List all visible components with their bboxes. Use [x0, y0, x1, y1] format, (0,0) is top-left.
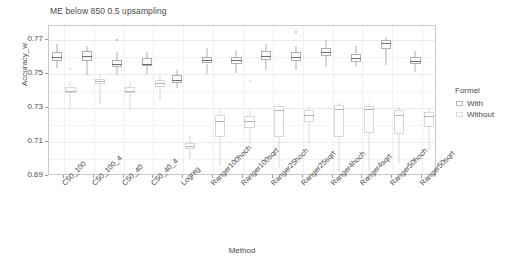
whisker-lower: [146, 66, 147, 74]
legend-key-icon: [455, 110, 464, 119]
median-line: [52, 57, 62, 58]
whisker-lower: [415, 64, 416, 72]
chart-title: ME below 850 0.5 upsampling: [50, 6, 167, 16]
x-axis-label: Method: [48, 246, 436, 255]
median-line: [351, 58, 361, 59]
whisker-upper: [117, 52, 118, 60]
whisker-lower: [368, 133, 369, 171]
median-line: [394, 115, 404, 116]
whisker-lower: [189, 149, 190, 159]
gridline-minor: [49, 91, 435, 92]
boxplot-with: [52, 26, 62, 175]
boxplot-with: [202, 26, 212, 175]
box: [394, 110, 404, 135]
median-line: [185, 146, 195, 147]
whisker-lower: [130, 93, 131, 109]
whisker-upper: [325, 40, 326, 48]
median-line: [304, 115, 314, 116]
whisker-lower: [266, 60, 267, 70]
boxplot-with: [142, 26, 152, 175]
whisker-lower: [355, 62, 356, 66]
median-line: [410, 61, 420, 62]
median-line: [202, 60, 212, 61]
gridline-major: [49, 142, 435, 143]
median-line: [125, 91, 135, 92]
median-line: [321, 52, 331, 53]
gridline-major: [49, 108, 435, 109]
box: [381, 40, 391, 49]
gridline-minor: [49, 57, 435, 58]
outlier-point: [249, 80, 251, 82]
whisker-lower: [100, 84, 101, 104]
legend-item-with[interactable]: With: [455, 98, 494, 109]
y-tick-label: 0.73: [27, 102, 43, 111]
gridline-minor: [49, 125, 435, 126]
y-tick-mark: [45, 141, 48, 142]
box: [424, 112, 434, 126]
boxplot-without: [394, 26, 404, 175]
y-tick-mark: [45, 39, 48, 40]
whisker-lower: [206, 64, 207, 74]
median-line: [65, 91, 75, 92]
median-line: [364, 109, 374, 110]
outlier-point: [295, 31, 297, 33]
legend-item-label: Without: [467, 110, 494, 119]
whisker-lower: [249, 128, 250, 143]
gridline-major: [49, 74, 435, 75]
whisker-upper: [57, 44, 58, 53]
boxplot-with: [82, 26, 92, 175]
gridline-major: [49, 40, 435, 41]
outlier-point: [69, 68, 71, 70]
y-tick-mark: [45, 107, 48, 108]
median-line: [215, 121, 225, 122]
legend-key-icon: [455, 99, 464, 108]
box: [142, 58, 152, 66]
median-line: [95, 81, 105, 82]
whisker-lower: [309, 122, 310, 142]
whisker-lower: [70, 93, 71, 109]
whisker-lower: [87, 61, 88, 75]
median-line: [424, 116, 434, 117]
boxplot-without: [364, 26, 374, 175]
median-line: [274, 110, 284, 111]
boxplot-without: [125, 26, 135, 175]
whisker-upper: [189, 136, 190, 143]
whisker-upper: [206, 48, 207, 57]
legend: Formel WithWithout: [455, 86, 494, 120]
whisker-upper: [219, 108, 220, 116]
whisker-upper: [266, 44, 267, 51]
legend-item-without[interactable]: Without: [455, 109, 494, 120]
median-line: [334, 109, 344, 110]
whisker-lower: [176, 83, 177, 88]
legend-items: WithWithout: [455, 98, 494, 120]
median-line: [231, 60, 241, 61]
y-tick-label: 0.75: [27, 68, 43, 77]
median-line: [244, 121, 254, 122]
y-tick-label: 0.71: [27, 136, 43, 145]
chart-root: ME below 850 0.5 upsampling Accuracy_w M…: [0, 0, 519, 263]
whisker-lower: [296, 61, 297, 70]
box: [364, 106, 374, 132]
boxplot-without: [155, 26, 165, 175]
y-tick-mark: [45, 175, 48, 176]
median-line: [291, 57, 301, 58]
median-line: [142, 64, 152, 65]
boxplot-without: [185, 26, 195, 175]
median-line: [112, 64, 122, 65]
box: [334, 105, 344, 137]
whisker-lower: [339, 137, 340, 172]
whisker-lower: [219, 137, 220, 166]
median-line: [155, 83, 165, 84]
median-line: [381, 43, 391, 44]
boxplot-without: [215, 26, 225, 175]
whisker-lower: [385, 49, 386, 65]
outlier-point: [116, 39, 118, 41]
whisker-lower: [236, 64, 237, 73]
legend-item-label: With: [467, 99, 483, 108]
whisker-lower: [160, 87, 161, 101]
whisker-upper: [249, 110, 250, 117]
whisker-upper: [355, 46, 356, 54]
whisker-upper: [296, 46, 297, 53]
median-line: [172, 80, 182, 81]
boxplot-without: [95, 26, 105, 175]
